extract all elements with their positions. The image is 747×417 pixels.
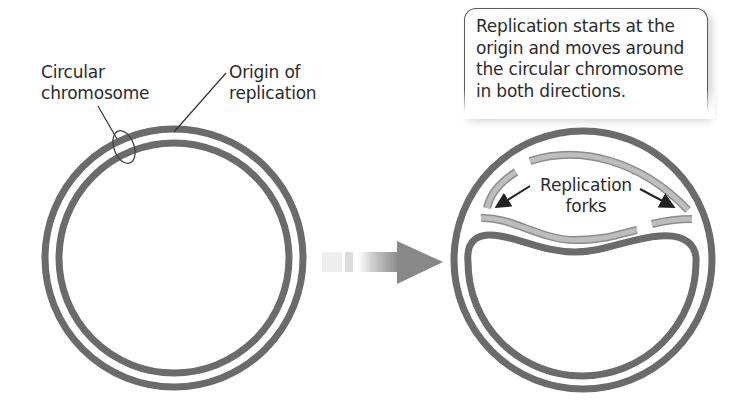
circular-chromosome-left [45, 129, 303, 387]
replicating-chromosome-right [454, 131, 712, 389]
label-circular-chromosome: Circular chromosome [41, 62, 149, 104]
callout-text: Replication starts at the origin and mov… [476, 16, 684, 102]
fork-arrow-left-icon [498, 186, 530, 206]
label-replication-forks: Replication forks [536, 175, 636, 217]
leader-line-origin [174, 73, 226, 132]
label-origin-of-replication: Origin of replication [229, 62, 316, 104]
transition-arrow-icon [322, 241, 443, 284]
